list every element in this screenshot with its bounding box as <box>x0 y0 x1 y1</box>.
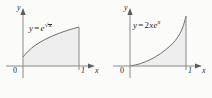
left-origin-label: 0 <box>13 66 17 75</box>
right-equation-exponent: x <box>158 18 161 25</box>
right-x-axis-label: x <box>202 66 206 75</box>
left-y-axis-arrow-icon <box>20 8 25 15</box>
right-x-tick-label: 1 <box>188 66 192 75</box>
right-y-axis-arrow-icon <box>127 8 132 15</box>
left-plot-panel: y=e√x y x 0 1 <box>0 0 106 98</box>
right-plot-panel: y=2xex y x 0 1 <box>106 0 212 98</box>
left-equation-label: y=e√x <box>29 23 52 33</box>
left-x-axis-arrow-icon <box>88 63 95 68</box>
figure-sheet: y=e√x y x 0 1 y=2xex y x 0 1 <box>0 0 212 98</box>
left-x-tick-label: 1 <box>81 66 85 75</box>
right-plot-svg <box>106 0 212 98</box>
right-y-axis-label: y <box>124 3 128 12</box>
left-equation-radicand: x <box>48 24 52 25</box>
left-y-axis-label: y <box>17 3 21 12</box>
right-x-axis-arrow-icon <box>195 63 202 68</box>
left-plot-svg <box>0 0 106 98</box>
left-x-axis-label: x <box>95 66 99 75</box>
left-equation-exponent: √x <box>45 21 52 28</box>
right-origin-label: 0 <box>120 66 124 75</box>
right-equation-label: y=2xex <box>133 20 161 30</box>
